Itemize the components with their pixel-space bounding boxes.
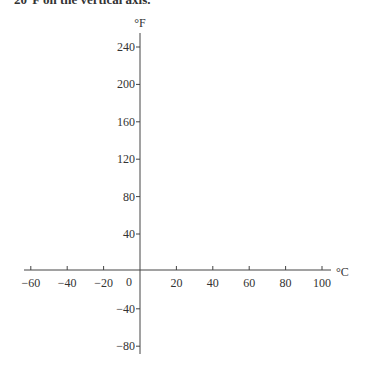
chart: −60−40−2020406080100 2402001601208040−40… <box>0 0 366 369</box>
y-tick-label: 80 <box>123 190 135 204</box>
x-tick-label: 40 <box>207 276 219 290</box>
x-tick-label: −40 <box>58 276 77 290</box>
y-tick-label: 160 <box>117 115 135 129</box>
x-axis-label: °C <box>336 265 349 279</box>
y-tick-label: 240 <box>117 40 135 54</box>
x-tick-label: 100 <box>313 276 331 290</box>
x-tick-label: 20 <box>170 276 182 290</box>
y-ticks: 2402001601208040−40−80 <box>116 40 140 353</box>
y-tick-label: −40 <box>116 302 135 316</box>
y-tick-label: 200 <box>117 77 135 91</box>
x-tick-label: −60 <box>21 276 40 290</box>
y-tick-label: −80 <box>116 339 135 353</box>
x-tick-label: 60 <box>243 276 255 290</box>
y-axis-label: °F <box>134 16 146 30</box>
y-tick-label: 120 <box>117 152 135 166</box>
x-tick-label: −20 <box>94 276 113 290</box>
origin-label: 0 <box>126 275 132 289</box>
y-tick-label: 40 <box>123 227 135 241</box>
x-tick-label: 80 <box>280 276 292 290</box>
